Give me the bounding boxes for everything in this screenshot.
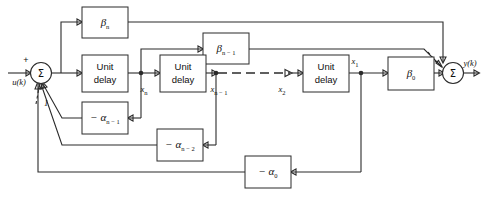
block-diagram-figure: βn βn − 1 β0 Unit delay Unit delay Unit …: [0, 0, 485, 201]
tap-label-xn: xn: [139, 84, 148, 96]
output-summing-junction-glyph: Σ: [450, 68, 456, 79]
input-sign-label: +: [23, 55, 28, 65]
tap-label-x2: x2: [277, 84, 285, 96]
diagram-canvas: βn βn − 1 β0 Unit delay Unit delay Unit …: [0, 0, 485, 201]
unit-delay-1-label-line1: Unit: [97, 61, 114, 72]
tap-label-x1: x1: [350, 56, 358, 68]
unit-delay-3-label-line2: delay: [315, 74, 338, 85]
unit-delay-3-label-line1: Unit: [318, 61, 335, 72]
input-signal-label: u(k): [12, 77, 26, 87]
block-layer: βn βn − 1 β0 Unit delay Unit delay Unit …: [82, 7, 434, 188]
unit-delay-1-label-line2: delay: [94, 74, 117, 85]
wire-branch-to-beta-n: [61, 22, 82, 73]
continuation-marker-label: 1: [44, 98, 48, 108]
unit-delay-2-label-line1: Unit: [175, 61, 192, 72]
wire-alpha-n1-to-summer: [43, 84, 82, 118]
output-signal-label: y(k): [462, 58, 476, 68]
unit-delay-2-label-line2: delay: [172, 74, 195, 85]
tap-label-xn-minus-1: xn − 1: [209, 84, 227, 96]
input-summing-junction-glyph: Σ: [38, 68, 44, 79]
